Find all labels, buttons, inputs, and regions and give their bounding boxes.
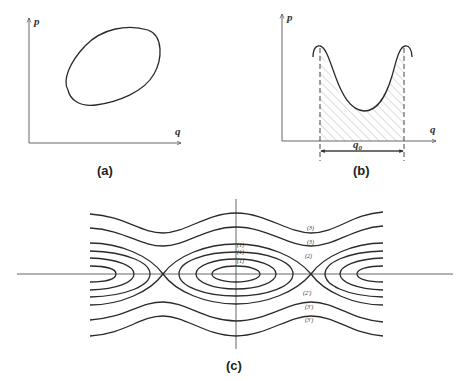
caption-b: (b) xyxy=(353,163,370,178)
p-axis-label: p xyxy=(286,11,293,23)
open-trajectory-lower-1 xyxy=(90,302,383,322)
q-axis-label: q xyxy=(175,125,181,137)
panel-a: p q (a) xyxy=(29,15,181,178)
p-axis-label: p xyxy=(33,15,40,27)
caption-c: (c) xyxy=(226,358,242,373)
label-2-upper: (2) xyxy=(305,253,312,260)
label-3-prime-inner: (3') xyxy=(305,304,313,311)
caption-a: (a) xyxy=(97,163,113,178)
phase-diagrams-figure: p q (a) q0 p q (b) xyxy=(0,0,464,381)
label-3-upper-inner: (3) xyxy=(307,239,314,246)
label-1-middle: (1) xyxy=(237,249,244,256)
label-3-prime-outer: (3') xyxy=(305,317,313,324)
open-trajectory-upper-1 xyxy=(90,212,383,233)
panel-c: (3) (3) (2) (1) (1) (1) (2') (3') (3') (… xyxy=(17,199,453,373)
panel-b: q0 p q (b) xyxy=(282,11,436,178)
q-axis-label: q xyxy=(430,123,436,135)
label-3-upper-outer: (3) xyxy=(307,225,314,232)
hatched-area xyxy=(319,50,404,141)
label-1-inner: (1) xyxy=(237,258,244,265)
open-trajectory-lower-2 xyxy=(90,316,383,336)
label-2-prime-lower: (2') xyxy=(303,290,311,297)
closed-orbit-curve xyxy=(66,27,160,105)
label-1-outer: (1) xyxy=(237,242,244,249)
